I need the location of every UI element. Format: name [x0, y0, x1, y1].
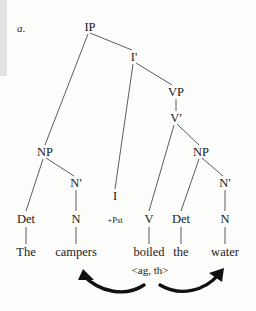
- tree-node-det2: Det: [172, 213, 190, 226]
- tree-node-det1: Det: [17, 213, 35, 226]
- terminal-word-the: the: [173, 246, 188, 259]
- terminal-word-boiled: boiled: [133, 246, 164, 259]
- tree-node-v: V: [144, 213, 153, 226]
- tree-branch-IP-to-Ibar: [90, 33, 132, 50]
- tree-node-i: I: [113, 190, 117, 203]
- tree-node-n1: N: [71, 213, 80, 226]
- theta-grid-label: <ag, th>: [132, 265, 169, 276]
- tree-node-np1: NP: [37, 146, 53, 159]
- tree-branch-Vbar-to-V: [149, 125, 174, 211]
- tree-branch-NP1-to-Nbar1: [46, 158, 74, 176]
- tree-node-np2: NP: [193, 146, 209, 159]
- tree-node-ibar: I': [131, 51, 137, 64]
- syntax-tree-figure: a. IPI'VPV'NPN'NPN'DetNI+PstVDetN Thecam…: [0, 0, 256, 311]
- terminal-word-campers: campers: [55, 246, 97, 259]
- tree-branch-NP1-to-Det1: [26, 159, 43, 211]
- tree-branch-Vbar-to-NP2: [177, 124, 199, 145]
- tree-node-vp: VP: [168, 86, 184, 99]
- tree-branch-Ibar-to-I: [115, 64, 133, 189]
- tree-node-ip: IP: [84, 21, 95, 34]
- terminal-word-the: The: [16, 246, 35, 259]
- tree-branch-Ibar-to-VP: [136, 63, 172, 85]
- tree-node-pst: +Pst: [107, 216, 122, 225]
- tree-node-nbar1: N': [70, 177, 81, 190]
- terminal-word-water: water: [211, 246, 239, 259]
- tree-branch-NP2-to-Det2: [181, 159, 199, 211]
- tree-node-nbar2: N': [219, 177, 230, 190]
- tree-node-n2: N: [220, 213, 229, 226]
- tree-branch-NP2-to-Nbar2: [202, 158, 223, 176]
- tree-node-vbar: V': [170, 112, 181, 125]
- tree-branch-IP-to-NP1: [45, 34, 88, 145]
